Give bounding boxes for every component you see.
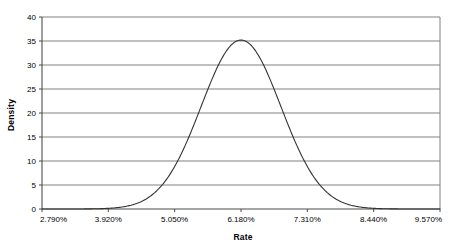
x-tick-label-2: 5.050%	[161, 215, 188, 224]
y-tick-label-6: 30	[27, 61, 36, 70]
y-tick-label-4: 20	[27, 109, 36, 118]
y-tick-label-2: 10	[27, 157, 36, 166]
y-axis-tick-labels: 0510152025303540	[27, 13, 36, 214]
x-tick-label-4: 7.310%	[294, 215, 321, 224]
x-tick-label-3: 6.180%	[227, 215, 254, 224]
y-axis-title: Density	[6, 99, 16, 131]
x-tick-label-6: 9.570%	[415, 215, 442, 224]
y-tick-label-1: 5	[32, 181, 37, 190]
y-tick-label-7: 35	[27, 37, 36, 46]
x-tick-label-0: 2.790%	[40, 215, 67, 224]
y-tick-label-8: 40	[27, 13, 36, 22]
x-tick-label-5: 8.440%	[360, 215, 387, 224]
x-axis-tick-labels: 2.790%3.920%5.050%6.180%7.310%8.440%9.57…	[40, 215, 442, 224]
x-axis-title: Rate	[233, 232, 252, 242]
x-tick-label-1: 3.920%	[95, 215, 122, 224]
y-tick-label-5: 25	[27, 85, 36, 94]
y-tick-label-0: 0	[32, 205, 37, 214]
y-tick-label-3: 15	[27, 133, 36, 142]
chart-canvas: 0510152025303540 2.790%3.920%5.050%6.180…	[0, 0, 470, 250]
density-chart: 0510152025303540 2.790%3.920%5.050%6.180…	[0, 0, 470, 250]
